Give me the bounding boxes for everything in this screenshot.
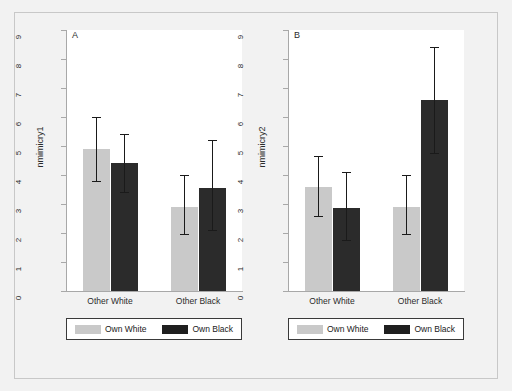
y-tick-label: 0 xyxy=(15,291,23,305)
y-tick-label: 7 xyxy=(15,88,23,102)
error-bar-cap-upper xyxy=(314,156,323,157)
error-bar-line xyxy=(406,175,407,234)
error-bar-line xyxy=(318,156,319,215)
error-bar-cap-upper xyxy=(180,175,189,176)
panel-label-a: A xyxy=(72,30,78,40)
y-tick-mark xyxy=(61,88,66,89)
y-tick-mark xyxy=(283,175,288,176)
legend-swatch-own-black xyxy=(162,325,188,334)
error-bar-cap-lower xyxy=(120,192,129,193)
y-tick-mark xyxy=(283,204,288,205)
y-axis-line-b xyxy=(288,30,289,292)
y-tick-label: 3 xyxy=(15,204,23,218)
error-bar-cap-upper xyxy=(402,175,411,176)
y-tick-mark xyxy=(61,59,66,60)
legend-swatch-own-white xyxy=(297,325,323,334)
error-bar-cap-upper xyxy=(208,140,217,141)
error-bar-cap-lower xyxy=(180,234,189,235)
error-bar-cap-lower xyxy=(402,234,411,235)
figure-canvas: A nmimicry1 0123456789 Other WhiteOther … xyxy=(0,0,512,391)
legend-label: Own White xyxy=(327,324,369,334)
y-axis-line-a xyxy=(66,30,67,292)
y-tick-mark xyxy=(61,291,66,292)
y-tick-mark xyxy=(283,30,288,31)
error-bar-cap-upper xyxy=(430,47,439,48)
legend-swatch-own-white xyxy=(75,325,101,334)
y-tick-label: 9 xyxy=(15,30,23,44)
y-tick-label: 6 xyxy=(15,117,23,131)
error-bar-line xyxy=(184,175,185,234)
y-tick-label: 1 xyxy=(237,262,245,276)
y-tick-label: 0 xyxy=(237,291,245,305)
error-bar-cap-lower xyxy=(430,153,439,154)
x-tick-label: Other Black xyxy=(153,296,243,306)
legend-item-own-black: Own Black xyxy=(162,324,233,334)
y-tick-mark xyxy=(61,175,66,176)
error-bar-line xyxy=(96,117,97,181)
error-bar-cap-lower xyxy=(208,230,217,231)
error-bar-cap-upper xyxy=(92,117,101,118)
y-tick-mark xyxy=(283,233,288,234)
legend-swatch-own-black xyxy=(384,325,410,334)
x-tick-label: Other White xyxy=(65,296,155,306)
y-tick-label: 5 xyxy=(15,146,23,160)
error-bar-line xyxy=(346,172,347,240)
legend-item-own-black: Own Black xyxy=(384,324,455,334)
legend-item-own-white: Own White xyxy=(297,324,369,334)
legend-label: Own White xyxy=(105,324,147,334)
y-tick-mark xyxy=(61,117,66,118)
error-bar-cap-upper xyxy=(120,134,129,135)
error-bar-cap-upper xyxy=(342,172,351,173)
y-axis-title-a: nmimicry1 xyxy=(35,77,45,217)
y-tick-mark xyxy=(61,30,66,31)
y-axis-title-b: nmimicry2 xyxy=(257,77,267,217)
y-tick-label: 4 xyxy=(237,175,245,189)
y-tick-label: 8 xyxy=(15,59,23,73)
legend-label: Own Black xyxy=(192,324,233,334)
x-tick-label: Other White xyxy=(287,296,377,306)
y-tick-mark xyxy=(283,59,288,60)
error-bar-line xyxy=(212,140,213,230)
y-tick-mark xyxy=(283,117,288,118)
legend-a: Own WhiteOwn Black xyxy=(66,318,242,340)
y-tick-mark xyxy=(61,146,66,147)
x-axis-line-b xyxy=(288,291,465,292)
y-tick-mark xyxy=(61,233,66,234)
legend-label: Own Black xyxy=(414,324,455,334)
y-tick-label: 2 xyxy=(237,233,245,247)
legend-item-own-white: Own White xyxy=(75,324,147,334)
y-tick-mark xyxy=(283,88,288,89)
y-tick-mark xyxy=(283,146,288,147)
y-tick-label: 6 xyxy=(237,117,245,131)
error-bar-cap-lower xyxy=(342,240,351,241)
y-tick-label: 4 xyxy=(15,175,23,189)
error-bar-line xyxy=(124,134,125,192)
y-tick-label: 1 xyxy=(15,262,23,276)
legend-b: Own WhiteOwn Black xyxy=(288,318,464,340)
chart-panel-b: B nmimicry2 0123456789 Other WhiteOther … xyxy=(244,22,470,354)
y-tick-label: 9 xyxy=(237,30,245,44)
error-bar-cap-lower xyxy=(314,216,323,217)
y-tick-mark xyxy=(283,262,288,263)
x-tick-label: Other Black xyxy=(375,296,465,306)
y-tick-label: 5 xyxy=(237,146,245,160)
chart-panel-a: A nmimicry1 0123456789 Other WhiteOther … xyxy=(22,22,248,354)
x-axis-line-a xyxy=(66,291,243,292)
error-bar-cap-lower xyxy=(92,181,101,182)
y-tick-label: 7 xyxy=(237,88,245,102)
error-bar-line xyxy=(434,47,435,153)
y-tick-mark xyxy=(61,204,66,205)
y-tick-label: 3 xyxy=(237,204,245,218)
y-tick-label: 8 xyxy=(237,59,245,73)
y-tick-mark xyxy=(61,262,66,263)
y-tick-mark xyxy=(283,291,288,292)
y-tick-label: 2 xyxy=(15,233,23,247)
panel-label-b: B xyxy=(294,30,300,40)
